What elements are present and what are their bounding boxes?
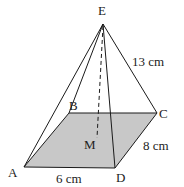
measure-ec: 13 cm [132,54,164,69]
label-d: D [116,170,125,185]
pyramid-diagram: E B C M A D 13 cm 8 cm 6 cm [0,0,184,187]
measure-dc: 8 cm [143,138,169,153]
label-c: C [159,106,168,121]
label-e: E [98,3,106,18]
pyramid-svg: E B C M A D 13 cm 8 cm 6 cm [0,0,184,187]
measure-ad: 6 cm [56,171,82,186]
label-a: A [8,165,18,180]
label-m: M [84,137,96,152]
label-b: B [69,98,78,113]
